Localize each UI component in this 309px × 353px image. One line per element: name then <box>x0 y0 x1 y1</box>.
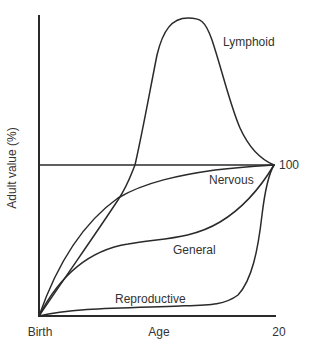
y-tick-100: 100 <box>279 158 299 172</box>
growth-curves-chart: Adult value (%) Age Birth 20 100 Lymphoi… <box>0 0 309 353</box>
reproductive-label: Reproductive <box>115 292 186 306</box>
x-tick-birth: Birth <box>28 325 53 339</box>
lymphoid-label: Lymphoid <box>223 35 275 49</box>
y-axis-label: Adult value (%) <box>5 127 19 208</box>
x-tick-20: 20 <box>272 325 286 339</box>
x-axis-label: Age <box>148 325 170 339</box>
nervous-label: Nervous <box>209 173 254 187</box>
general-label: General <box>173 243 216 257</box>
